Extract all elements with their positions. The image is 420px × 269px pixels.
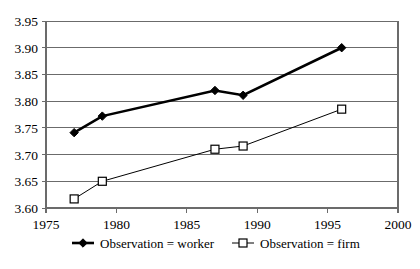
legend-label: Observation = worker: [100, 236, 215, 251]
y-tick-label: 3.85: [14, 67, 38, 82]
y-tick-label: 3.60: [14, 201, 38, 216]
chart-figure: 3.603.653.703.753.803.853.903.95 1975198…: [0, 0, 420, 269]
y-tick-label: 3.90: [14, 41, 38, 56]
x-tick-label: 1985: [173, 217, 200, 232]
data-point-marker: [338, 105, 346, 113]
y-tick-label: 3.65: [14, 174, 38, 189]
x-tick-label: 2000: [385, 217, 412, 232]
x-tick-label: 1995: [314, 217, 341, 232]
data-point-marker: [211, 145, 219, 153]
line-chart: 3.603.653.703.753.803.853.903.95 1975198…: [0, 0, 420, 269]
x-tick-label: 1975: [33, 217, 60, 232]
x-tick-label: 1980: [103, 217, 130, 232]
data-point-marker: [239, 142, 247, 150]
y-tick-label: 3.75: [14, 121, 38, 136]
data-point-marker: [70, 195, 78, 203]
y-tick-label: 3.70: [14, 148, 38, 163]
y-tick-label: 3.80: [14, 94, 38, 109]
legend-marker: [239, 239, 247, 247]
legend-label: Observation = firm: [260, 236, 360, 251]
chart-background: [0, 0, 420, 269]
y-tick-label: 3.95: [14, 14, 38, 29]
data-point-marker: [98, 177, 106, 185]
x-tick-label: 1990: [244, 217, 271, 232]
